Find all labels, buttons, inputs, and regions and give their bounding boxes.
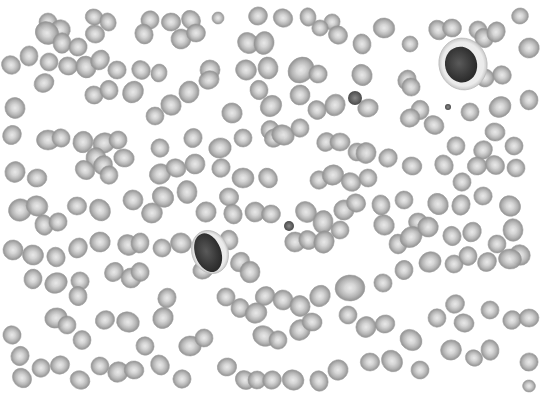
red-blood-cell xyxy=(232,168,254,188)
small-dark-cell xyxy=(348,91,362,105)
red-blood-cell xyxy=(240,261,260,283)
red-blood-cell xyxy=(428,308,447,327)
small-dark-cell xyxy=(445,104,451,110)
small-dark-cell xyxy=(284,221,294,231)
red-blood-cell xyxy=(20,46,39,67)
red-blood-cell xyxy=(360,353,380,372)
red-blood-cell xyxy=(53,33,71,54)
red-blood-cell xyxy=(503,218,524,241)
red-blood-cell xyxy=(73,330,91,349)
red-blood-cell xyxy=(67,197,87,216)
smear-canvas xyxy=(0,0,543,399)
red-blood-cell xyxy=(330,133,350,151)
red-blood-cell xyxy=(146,107,165,126)
